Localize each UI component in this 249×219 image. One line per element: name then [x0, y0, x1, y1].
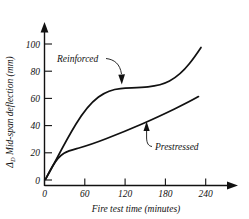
annotation-prestressed-leader	[147, 131, 152, 147]
annotation-prestressed-label: Prestressed	[154, 142, 199, 152]
axes-group	[41, 22, 238, 190]
chart-figure: 100 80 60 40 20 0 0 60 120 180 240 Fire …	[0, 0, 249, 219]
y-axis-title: ΔD Mid-span deflection (mm)	[5, 56, 16, 168]
annotation-reinforced-arrowhead	[118, 74, 125, 84]
x-tick-label-0: 0	[42, 189, 47, 199]
svg-text:ΔD Mid-span deflection (mm): ΔD Mid-span deflection (mm)	[5, 56, 16, 168]
y-tick-label-40: 40	[31, 121, 41, 131]
x-axis-title: Fire test time (minutes)	[91, 204, 181, 215]
y-tick-marks	[45, 44, 53, 180]
y-axis-title-rest: Mid-span deflection (mm)	[5, 56, 16, 157]
series-curve-reinforced	[46, 48, 202, 180]
x-axis-arrowhead	[227, 181, 238, 189]
deflection-line-chart: 100 80 60 40 20 0 0 60 120 180 240 Fire …	[0, 0, 249, 219]
y-tick-label-80: 80	[31, 67, 41, 77]
y-tick-label-20: 20	[31, 148, 41, 158]
y-axis-arrowhead	[41, 22, 49, 33]
annotation-reinforced-label: Reinforced	[56, 54, 99, 64]
annotation-reinforced-leader	[106, 59, 122, 75]
x-tick-label-180: 180	[158, 189, 173, 199]
x-tick-label-240: 240	[199, 189, 214, 199]
y-tick-labels: 100 80 60 40 20 0	[26, 40, 41, 186]
x-tick-marks	[45, 179, 206, 186]
x-tick-label-60: 60	[80, 189, 90, 199]
annotation-prestressed: Prestressed	[144, 122, 199, 152]
x-tick-label-120: 120	[118, 189, 133, 199]
x-tick-labels: 0 60 120 180 240	[42, 189, 213, 199]
y-tick-label-60: 60	[31, 94, 41, 104]
y-tick-label-100: 100	[26, 40, 41, 50]
annotation-reinforced: Reinforced	[56, 54, 125, 85]
y-tick-label-0: 0	[35, 176, 40, 186]
